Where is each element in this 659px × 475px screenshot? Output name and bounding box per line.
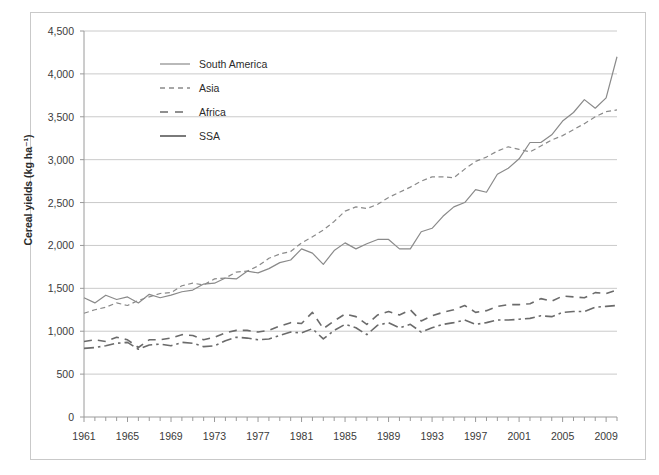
x-tick-label: 1997 xyxy=(452,430,500,442)
y-tick-label: 3,500 xyxy=(20,112,74,122)
legend-label-south-america: South America xyxy=(199,58,267,70)
legend-item-south-america: South America xyxy=(160,52,340,76)
chart-figure: Cereal yields (kg ha⁻¹) South America As… xyxy=(0,0,659,475)
legend-item-ssa: SSA xyxy=(160,124,340,148)
y-tick-label: 3,000 xyxy=(20,155,74,165)
legend-item-asia: Asia xyxy=(160,76,340,100)
x-tick-label: 1961 xyxy=(60,430,108,442)
y-tick-label: 4,500 xyxy=(20,26,74,36)
legend-swatch-asia xyxy=(160,83,190,93)
y-tick-label: 2,500 xyxy=(20,198,74,208)
legend-swatch-africa xyxy=(160,107,190,117)
legend-swatch-ssa xyxy=(160,131,190,141)
series-line-ssa xyxy=(84,305,617,349)
y-tick-label: 4,000 xyxy=(20,69,74,79)
y-tick-label: 1,000 xyxy=(20,326,74,336)
legend-swatch-south-america xyxy=(160,59,190,69)
x-tick-label: 2001 xyxy=(495,430,543,442)
x-tick-label: 1977 xyxy=(234,430,282,442)
x-tick-label: 1993 xyxy=(408,430,456,442)
legend-label-africa: Africa xyxy=(199,106,226,118)
y-tick-label: 1,500 xyxy=(20,283,74,293)
x-tick-label: 1989 xyxy=(365,430,413,442)
x-tick-label: 2009 xyxy=(582,430,630,442)
y-tick-label: 500 xyxy=(20,369,74,379)
chart-legend: South America Asia Africa SSA xyxy=(160,52,340,148)
legend-item-africa: Africa xyxy=(160,100,340,124)
legend-label-ssa: SSA xyxy=(199,130,220,142)
x-tick-label: 2005 xyxy=(539,430,587,442)
y-axis-title: Cereal yields (kg ha⁻¹) xyxy=(22,100,34,280)
x-tick-label: 1965 xyxy=(104,430,152,442)
y-tick-label: 0 xyxy=(20,412,74,422)
y-tick-label: 2,000 xyxy=(20,240,74,250)
x-tick-label: 1985 xyxy=(321,430,369,442)
x-tick-label: 1973 xyxy=(191,430,239,442)
x-tick-label: 1969 xyxy=(147,430,195,442)
series-line-africa xyxy=(84,290,617,347)
legend-label-asia: Asia xyxy=(199,82,219,94)
x-tick-label: 1981 xyxy=(278,430,326,442)
